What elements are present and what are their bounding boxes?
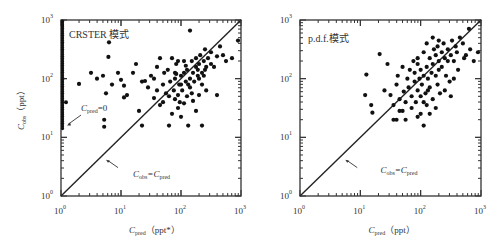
data-point	[410, 106, 414, 110]
data-point	[440, 50, 444, 54]
data-point	[396, 74, 400, 78]
data-point	[200, 82, 204, 86]
data-point	[203, 47, 207, 51]
data-point	[434, 106, 438, 110]
data-point	[403, 100, 407, 104]
data-point	[167, 124, 171, 128]
right-panel: 100100101101102102103103p.d.f.模式Cpred（pp…	[280, 13, 486, 236]
data-point	[131, 71, 135, 75]
data-point	[417, 77, 421, 81]
x-axis-label: Cpred（ppt）	[369, 225, 415, 236]
data-point	[455, 50, 459, 54]
data-point	[204, 88, 208, 92]
data-point	[143, 79, 147, 83]
data-point	[224, 59, 228, 63]
data-point	[168, 80, 172, 84]
data-point	[102, 125, 106, 129]
panel-title: p.d.f.模式	[308, 32, 349, 44]
data-point	[428, 112, 432, 116]
data-point	[140, 124, 144, 128]
data-point	[116, 71, 120, 75]
data-point	[458, 36, 462, 40]
data-point	[190, 91, 194, 95]
data-point	[425, 103, 429, 107]
data-point	[416, 62, 420, 66]
data-point	[173, 77, 177, 81]
data-point	[215, 93, 219, 97]
data-point	[440, 65, 444, 69]
data-point	[468, 47, 472, 51]
data-point	[437, 38, 441, 42]
data-point	[419, 94, 423, 98]
y-axis-label: Cobs（ppt）	[16, 86, 27, 130]
y-tick-label: 101	[41, 130, 53, 142]
data-point	[408, 68, 412, 72]
scatter-comparison-chart: 100100101101102102103103CRSTER 模式Cpred（p…	[0, 0, 496, 243]
data-point	[122, 84, 126, 88]
data-point	[426, 88, 430, 92]
data-point	[149, 74, 153, 78]
arrow-head-icon	[106, 160, 110, 163]
data-point	[89, 71, 93, 75]
data-point	[422, 124, 426, 128]
data-point	[77, 82, 81, 86]
data-point	[184, 64, 188, 68]
data-point	[426, 77, 430, 81]
data-point	[364, 72, 368, 76]
data-point	[422, 50, 426, 54]
data-point	[162, 71, 166, 75]
data-point	[476, 50, 480, 54]
data-point	[388, 93, 392, 97]
data-point	[190, 59, 194, 63]
data-point	[416, 56, 420, 60]
data-point	[394, 82, 398, 86]
data-point	[450, 38, 454, 42]
data-point	[443, 56, 447, 60]
data-point	[209, 62, 213, 66]
data-point	[472, 59, 476, 63]
data-point	[194, 56, 198, 60]
data-point	[461, 41, 465, 45]
data-point	[400, 109, 404, 113]
data-point	[425, 65, 429, 69]
data-point	[437, 68, 441, 72]
data-point	[464, 53, 468, 57]
data-point	[378, 52, 382, 56]
data-point	[411, 59, 415, 63]
identity-annotation: Cobs=Cpred	[380, 165, 417, 176]
data-point	[391, 103, 395, 107]
zero-pred-annotation: Cpred=0	[81, 103, 108, 114]
data-point	[391, 118, 395, 122]
data-point	[212, 65, 216, 69]
x-tick-label: 101	[114, 204, 126, 216]
data-point	[172, 88, 176, 92]
data-point	[158, 56, 162, 60]
data-point	[170, 112, 174, 116]
data-point	[137, 109, 141, 113]
data-point	[236, 38, 240, 42]
data-point	[186, 124, 190, 128]
data-point	[192, 80, 196, 84]
data-point	[176, 106, 180, 110]
data-point	[369, 103, 373, 107]
data-point	[434, 53, 438, 57]
data-point	[198, 53, 202, 57]
data-point	[104, 91, 108, 95]
data-point	[446, 47, 450, 51]
y-tick-label: 103	[41, 13, 53, 25]
data-points	[77, 28, 240, 128]
data-point	[146, 85, 150, 89]
data-point	[413, 80, 417, 84]
data-point	[230, 56, 234, 60]
data-point	[152, 96, 156, 100]
data-point	[452, 77, 456, 81]
data-point	[179, 115, 183, 119]
x-tick-label: 102	[414, 204, 426, 216]
y-tick-label: 103	[280, 13, 292, 25]
data-point	[413, 71, 417, 75]
data-point	[449, 53, 453, 57]
data-point	[438, 91, 442, 95]
data-point	[400, 65, 404, 69]
panel-title: CRSTER 模式	[69, 28, 129, 40]
data-point	[416, 88, 420, 92]
